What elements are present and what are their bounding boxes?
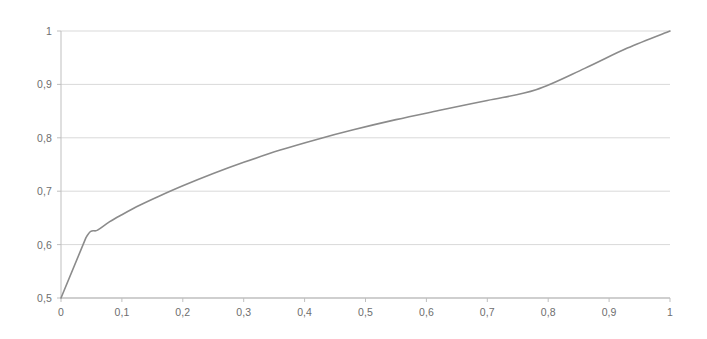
y-axis-tick-label: 0,9	[0, 78, 52, 90]
x-axis-tick-label: 0,3	[236, 306, 251, 318]
y-axis-tick-label: 0,6	[0, 239, 52, 251]
y-axis-tick-label: 1	[0, 25, 52, 37]
y-axis-tick-label: 0,8	[0, 132, 52, 144]
y-axis-tick-label: 0,7	[0, 185, 52, 197]
chart-container: 0,50,60,70,80,91 00,10,20,30,40,50,60,70…	[0, 0, 707, 339]
x-axis-tick-label: 0	[58, 306, 64, 318]
chart-plot-area	[0, 0, 707, 339]
x-axis-tick-label: 0,7	[480, 306, 495, 318]
x-axis-tick-label: 0,8	[541, 306, 556, 318]
x-axis-tick-label: 0,4	[297, 306, 312, 318]
x-axis-tick-label: 0,5	[358, 306, 373, 318]
y-axis-tick-label: 0,5	[0, 292, 52, 304]
x-axis-tick-marks	[61, 298, 670, 302]
x-axis-tick-label: 0,9	[602, 306, 617, 318]
x-axis-tick-label: 0,2	[175, 306, 190, 318]
x-axis-tick-label: 1	[667, 306, 673, 318]
x-axis-tick-label: 0,6	[419, 306, 434, 318]
x-axis-tick-label: 0,1	[114, 306, 129, 318]
y-axis-tick-marks	[57, 31, 61, 298]
data-series-line	[61, 31, 670, 298]
